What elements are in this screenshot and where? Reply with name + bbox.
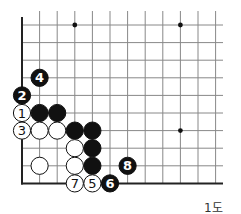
go-board: 12345678 [0, 0, 241, 214]
black-stone [66, 122, 83, 139]
white-stone [49, 122, 66, 139]
stone-move-number: 5 [88, 176, 96, 191]
star-point-icon [72, 23, 77, 28]
stone-move-number: 1 [18, 106, 26, 121]
stone-move-number: 6 [105, 176, 114, 191]
black-stone [84, 157, 101, 174]
star-point-icon [178, 128, 183, 133]
white-stone [31, 157, 48, 174]
stone-move-number: 3 [18, 123, 26, 138]
white-stone [31, 122, 48, 139]
black-stone [84, 122, 101, 139]
black-stone [49, 104, 66, 121]
diagram-caption: 1도 [204, 198, 223, 214]
stone-move-number: 8 [123, 158, 132, 173]
black-stone [84, 140, 101, 157]
white-stone [66, 157, 83, 174]
star-point-icon [178, 23, 183, 28]
stone-move-number: 2 [17, 88, 26, 103]
stone-move-number: 7 [71, 176, 79, 191]
white-stone [66, 140, 83, 157]
black-stone [31, 104, 48, 121]
stone-move-number: 4 [35, 70, 44, 85]
